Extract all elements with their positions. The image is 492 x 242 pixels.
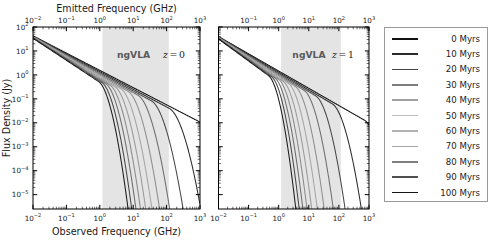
legend-item[interactable]: 50 Myrs	[385, 108, 487, 123]
legend-item-label: 10 Myrs	[418, 49, 487, 59]
xtick-bottom-right-1: 10−1	[240, 212, 257, 222]
legend-line-swatch	[392, 34, 418, 44]
legend-line-swatch	[392, 126, 418, 136]
legend-item-label: 40 Myrs	[418, 95, 487, 105]
legend-item[interactable]: 10 Myrs	[385, 46, 487, 61]
legend-item-label: 60 Myrs	[418, 126, 487, 136]
legend-line-swatch	[392, 49, 418, 59]
legend-line-swatch	[392, 141, 418, 151]
legend-item[interactable]: 80 Myrs	[385, 154, 487, 169]
legend-item-label: 90 Myrs	[418, 172, 487, 182]
legend-item[interactable]: 40 Myrs	[385, 93, 487, 108]
xtick-top-right-2: 101	[303, 15, 315, 25]
xtick-bottom-right-5: 103	[363, 212, 375, 222]
xtick-bottom-right-0: 10−2	[210, 212, 227, 222]
xtick-top-right-1: 100	[272, 15, 284, 25]
legend-item-label: 80 Myrs	[418, 157, 487, 167]
legend-item-label: 0 Myrs	[418, 34, 487, 44]
legend-line-swatch	[392, 111, 418, 121]
xtick-bottom-right-3: 101	[303, 212, 315, 222]
legend-line-swatch	[392, 157, 418, 167]
xtick-top-right-4: 103	[363, 15, 375, 25]
legend-line-swatch	[392, 80, 418, 90]
xtick-top-right-3: 102	[333, 15, 345, 25]
legend-line-swatch	[392, 172, 418, 182]
legend-item-label: 50 Myrs	[418, 111, 487, 121]
legend-item-label: 100 Myrs	[418, 188, 487, 198]
legend-item[interactable]: 60 Myrs	[385, 123, 487, 138]
legend-item[interactable]: 0 Myrs	[385, 31, 487, 46]
xtick-bottom-right-2: 100	[272, 212, 284, 222]
legend-line-swatch	[392, 95, 418, 105]
legend-item[interactable]: 90 Myrs	[385, 170, 487, 185]
legend-item-label: 30 Myrs	[418, 80, 487, 90]
xtick-top-right-0: 10−1	[240, 15, 257, 25]
redshift-annotation-right: z=1	[331, 49, 354, 60]
xtick-bottom-right-4: 102	[333, 212, 345, 222]
legend: 0 Myrs10 Myrs20 Myrs30 Myrs40 Myrs50 Myr…	[384, 27, 488, 202]
legend-line-swatch	[392, 188, 418, 198]
legend-item[interactable]: 100 Myrs	[385, 185, 487, 200]
legend-item[interactable]: 70 Myrs	[385, 139, 487, 154]
legend-line-swatch	[392, 64, 418, 74]
legend-item[interactable]: 20 Myrs	[385, 62, 487, 77]
legend-item-label: 70 Myrs	[418, 141, 487, 151]
legend-item[interactable]: 30 Myrs	[385, 77, 487, 92]
figure-root: 10−210−110010110210310−210−1100101102103…	[0, 0, 492, 242]
panel-right-group: 10−210−110010110210310−1100101102103ngVL…	[210, 15, 375, 238]
legend-item-label: 20 Myrs	[418, 64, 487, 74]
ngvla-label-right: ngVLA	[292, 49, 326, 60]
